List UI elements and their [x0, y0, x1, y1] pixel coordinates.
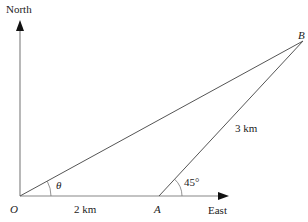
north-arrowhead-icon [16, 20, 24, 31]
angle-arc-theta [47, 181, 51, 196]
segment-AB-length: 3 km [235, 123, 257, 134]
segment-OB [20, 41, 303, 196]
angle-45-label: 45° [184, 177, 199, 188]
angle-arc-45 [175, 179, 182, 196]
bearing-diagram: North East O A B 2 km 3 km θ 45° [0, 0, 308, 222]
north-label: North [6, 4, 32, 15]
east-label: East [208, 205, 227, 216]
point-A-label: A [154, 204, 161, 215]
segment-OA-length: 2 km [74, 204, 96, 215]
segment-AB [159, 41, 303, 196]
point-B-label: B [298, 30, 305, 41]
angle-theta-label: θ [56, 180, 61, 191]
east-arrowhead-icon [218, 192, 229, 200]
point-O-label: O [10, 204, 18, 215]
diagram-svg [0, 0, 308, 222]
